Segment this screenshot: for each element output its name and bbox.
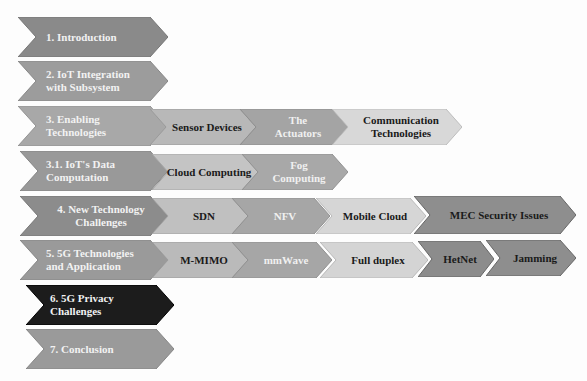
section-label: 7. Conclusion <box>26 343 114 356</box>
sub-label: Full duplex <box>337 254 411 267</box>
section-enabling-technologies: 3. Enabling Technologies <box>18 106 168 146</box>
section-label: 1. Introduction <box>18 31 117 44</box>
section-5g-privacy-challenges: 6. 5G Privacy Challenges <box>26 285 174 325</box>
section-label: 3.1. IoT's Data Computation <box>20 158 146 184</box>
sub-mec-security-issues: MEC Security Issues <box>414 196 576 234</box>
section-introduction: 1. Introduction <box>18 17 168 57</box>
sub-label: HetNet <box>429 253 483 266</box>
section-label: 3. Enabling Technologies <box>18 113 146 139</box>
sub-label: Sensor Devices <box>158 121 248 134</box>
sub-label: MEC Security Issues <box>436 209 554 222</box>
sub-full-duplex: Full duplex <box>320 242 428 278</box>
section-5g-technologies: 5. 5G Technologies and Application <box>20 240 168 280</box>
sub-label: Fog Computing <box>255 159 335 185</box>
section-label: 5. 5G Technologies and Application <box>20 247 146 273</box>
sub-label: Mobile Cloud <box>329 210 413 223</box>
sub-label: The Actuators <box>254 114 334 140</box>
sub-label: SDN <box>179 210 221 223</box>
sub-fog-computing: Fog Computing <box>242 154 348 190</box>
sub-mobile-cloud: Mobile Cloud <box>316 198 426 234</box>
section-conclusion: 7. Conclusion <box>26 329 174 369</box>
sub-communication-technologies: Communication Technologies <box>332 109 462 145</box>
sub-label: mmWave <box>250 254 315 267</box>
sub-label: Communication Technologies <box>332 114 462 140</box>
section-label: 6. 5G Privacy Challenges <box>26 292 150 318</box>
sub-mmwave: mmWave <box>232 242 332 278</box>
sub-label: M-MIMO <box>166 254 234 267</box>
sub-label: Jamming <box>499 252 563 265</box>
section-new-technology-challenges: 4. New Technology Challenges <box>20 196 168 236</box>
section-label: 4. New Technology Challenges <box>20 203 156 229</box>
sub-hetnet: HetNet <box>418 241 494 277</box>
sub-jamming: Jamming <box>486 240 576 276</box>
section-iot-integration: 2. IoT Integration with Subsystem <box>18 61 168 101</box>
section-data-computation: 3.1. IoT's Data Computation <box>20 151 168 191</box>
sub-label: NFV <box>260 210 303 223</box>
sub-label: Cloud Computing <box>153 166 258 179</box>
section-label: 2. IoT Integration with Subsystem <box>18 68 151 94</box>
